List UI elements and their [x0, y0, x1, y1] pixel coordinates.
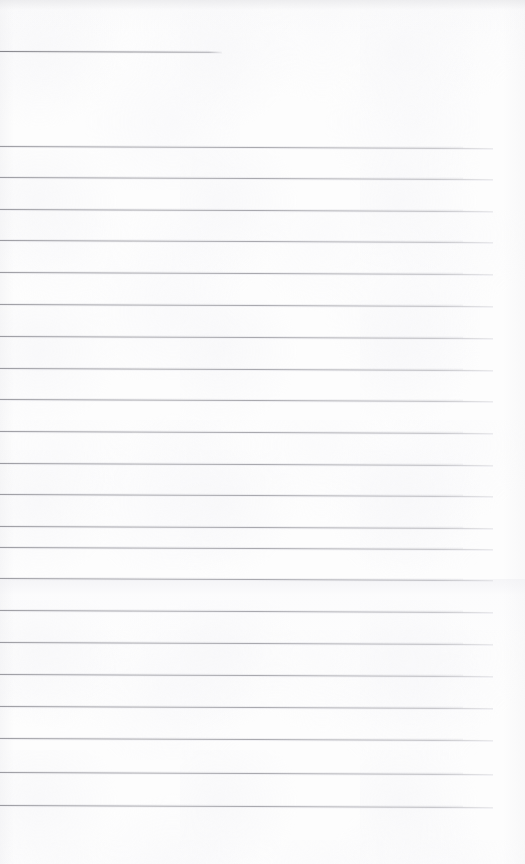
paper-surface [0, 0, 525, 864]
scanned-page [0, 0, 525, 864]
